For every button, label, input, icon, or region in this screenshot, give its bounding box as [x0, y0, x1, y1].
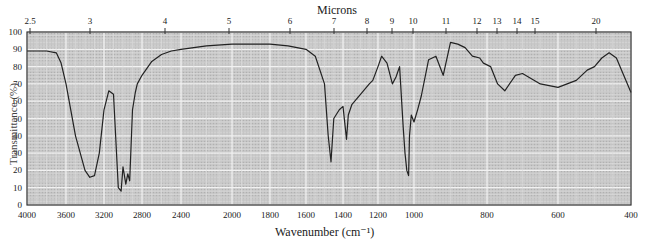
spectrum-plot: [0, 0, 671, 245]
